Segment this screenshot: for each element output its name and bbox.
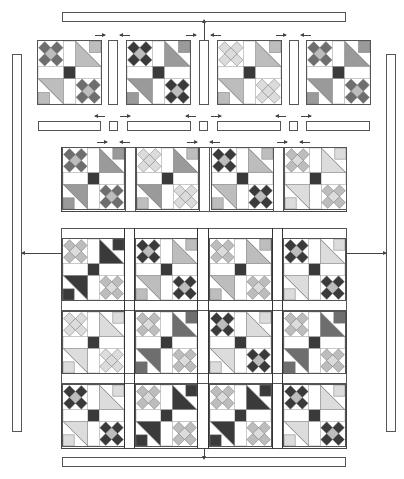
quilt-block — [62, 147, 125, 210]
quilt-block — [62, 238, 125, 301]
join-arrow-right-icon — [187, 142, 197, 143]
cornerstone-square — [109, 121, 118, 131]
vertical-sashing-strip — [125, 311, 134, 373]
horizontal-sashing-strip — [61, 300, 347, 311]
vertical-sashing-strip — [273, 311, 282, 373]
join-arrow-left-icon — [210, 142, 220, 143]
cornerstone-square — [289, 121, 298, 131]
horizontal-sashing-strip — [306, 121, 370, 131]
quilt-block — [283, 238, 346, 301]
join-arrow-right-icon — [211, 116, 221, 117]
vertical-sashing-strip — [199, 40, 209, 105]
vertical-sashing-strip — [273, 147, 284, 212]
quilt-block — [306, 40, 371, 105]
quilt-block — [211, 147, 274, 210]
vertical-sashing-strip — [289, 40, 299, 105]
left-border-strip — [12, 54, 22, 432]
horizontal-sashing-strip — [38, 121, 101, 131]
quilt-block — [135, 238, 198, 301]
join-arrow-right-icon — [120, 116, 130, 117]
right-border-join-arrow — [346, 253, 386, 254]
join-arrow-left-icon — [120, 35, 130, 36]
vertical-sashing-strip — [125, 147, 136, 212]
seam-line — [208, 228, 209, 449]
join-arrow-right-icon — [97, 142, 107, 143]
join-arrow-left-icon — [95, 116, 105, 117]
horizontal-sashing-strip — [61, 373, 347, 384]
quilt-block — [217, 40, 282, 105]
join-arrow-right-icon — [186, 35, 196, 36]
cornerstone-square — [199, 121, 208, 131]
join-arrow-left-icon — [300, 142, 310, 143]
vertical-sashing-strip — [273, 384, 282, 446]
quilt-block — [209, 384, 272, 447]
join-arrow-right-icon — [301, 116, 311, 117]
quilt-block — [283, 311, 346, 374]
join-arrow-left-icon — [211, 35, 221, 36]
quilt-block — [283, 384, 346, 447]
vertical-sashing-strip — [198, 238, 208, 300]
seam-line — [134, 228, 135, 449]
vertical-sashing-strip — [273, 238, 282, 300]
join-arrow-left-icon — [120, 142, 130, 143]
join-arrow-right-icon — [95, 35, 105, 36]
join-arrow-left-icon — [186, 116, 196, 117]
vertical-sashing-strip — [125, 384, 134, 446]
join-arrow-right-icon — [276, 35, 286, 36]
quilt-block — [284, 147, 347, 210]
right-border-strip — [386, 54, 396, 432]
vertical-sashing-strip — [125, 238, 134, 300]
quilt-block — [209, 311, 272, 374]
left-border-join-arrow — [22, 253, 62, 254]
quilt-block — [37, 40, 102, 105]
vertical-sashing-strip — [199, 147, 210, 212]
vertical-sashing-strip — [198, 384, 208, 446]
vertical-sashing-strip — [108, 40, 118, 105]
seam-line — [282, 228, 283, 449]
top-border-join-arrow — [204, 20, 205, 42]
quilt-block — [135, 384, 198, 447]
quilt-block — [62, 311, 125, 374]
quilt-block — [209, 238, 272, 301]
vertical-sashing-strip — [198, 311, 208, 373]
horizontal-sashing-strip — [127, 121, 191, 131]
join-arrow-right-icon — [277, 142, 287, 143]
horizontal-sashing-strip — [217, 121, 281, 131]
quilt-block — [136, 147, 199, 210]
join-arrow-left-icon — [276, 116, 286, 117]
quilt-block — [126, 40, 191, 105]
quilt-block — [135, 311, 198, 374]
join-arrow-left-icon — [301, 35, 311, 36]
quilt-block — [62, 384, 125, 447]
